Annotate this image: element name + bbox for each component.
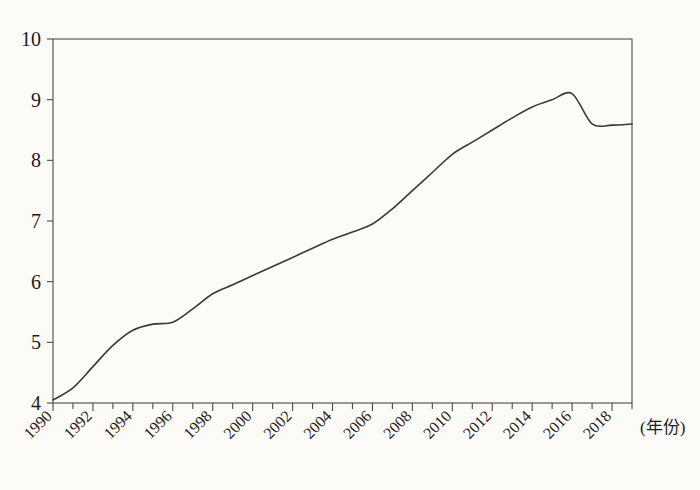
data-line-series	[53, 93, 632, 400]
x-axis-tick-label: 1990	[20, 407, 55, 442]
y-axis-tick-label: 5	[31, 331, 41, 353]
x-axis-tick-label: 1994	[100, 407, 135, 442]
y-axis-tick-label: 7	[31, 210, 41, 232]
chart-figure: 4567891019901992199419961998200020022004…	[0, 0, 700, 490]
x-axis-tick-label: 2000	[220, 407, 255, 442]
x-axis-tick-label: 2016	[540, 407, 575, 442]
x-axis-tick-label: 2014	[500, 407, 535, 442]
x-axis-tick-label: 1992	[60, 407, 95, 442]
line-chart-svg: 4567891019901992199419961998200020022004…	[0, 0, 700, 490]
x-axis-tick-label: 2008	[380, 407, 415, 442]
x-axis-tick-label: 2010	[420, 407, 455, 442]
y-axis-tick-label: 10	[21, 28, 41, 50]
y-axis-tick-label: 8	[31, 149, 41, 171]
x-axis-tick-label: 2004	[300, 407, 335, 442]
y-axis-tick-label: 9	[31, 89, 41, 111]
x-axis-tick-label: 2012	[460, 407, 495, 442]
x-axis-tick-label: 1996	[140, 407, 175, 442]
x-axis-tick-label: 1998	[180, 407, 215, 442]
y-axis-tick-label: 6	[31, 271, 41, 293]
plot-frame	[53, 39, 632, 403]
x-axis-caption: (年份)	[640, 418, 685, 437]
x-axis-tick-label: 2018	[580, 407, 615, 442]
x-axis-tick-label: 2006	[340, 407, 375, 442]
x-axis-tick-label: 2002	[260, 407, 295, 442]
